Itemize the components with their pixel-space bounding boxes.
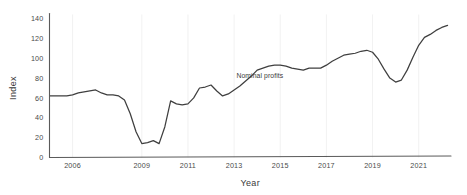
axes <box>50 14 452 158</box>
x-axis-tick-labels: 20062009201120132015201720192021 <box>64 161 427 170</box>
y-tick-label: 140 <box>31 14 44 23</box>
chart-annotations: Nominal profits <box>236 72 283 80</box>
x-axis-line <box>50 156 452 158</box>
nominal-profits-chart: 020406080100120140 200620092011201320152… <box>0 0 467 195</box>
x-tick-label: 2017 <box>318 161 335 170</box>
y-axis-title: Index <box>8 76 18 100</box>
series-line-nominal-profits <box>50 25 448 143</box>
y-tick-label: 60 <box>35 94 43 103</box>
x-tick-label: 2019 <box>364 161 381 170</box>
chart-canvas: 020406080100120140 200620092011201320152… <box>0 0 467 195</box>
gridlines <box>73 15 419 158</box>
x-tick-label: 2013 <box>226 161 243 170</box>
y-tick-label: 40 <box>35 113 43 122</box>
y-tick-label: 100 <box>31 54 44 63</box>
y-axis-tick-labels: 020406080100120140 <box>31 14 44 162</box>
series-annotation-label: Nominal profits <box>236 72 283 80</box>
y-tick-label: 80 <box>35 74 43 83</box>
x-tick-label: 2015 <box>272 161 289 170</box>
x-tick-label: 2009 <box>133 161 150 170</box>
y-tick-label: 0 <box>39 153 43 162</box>
x-axis-title: Year <box>240 178 260 188</box>
x-tick-label: 2021 <box>410 161 427 170</box>
y-tick-label: 120 <box>31 34 44 43</box>
plot-area <box>50 25 448 143</box>
x-tick-label: 2006 <box>64 161 81 170</box>
x-tick-label: 2011 <box>180 161 196 170</box>
y-tick-label: 20 <box>35 133 43 142</box>
